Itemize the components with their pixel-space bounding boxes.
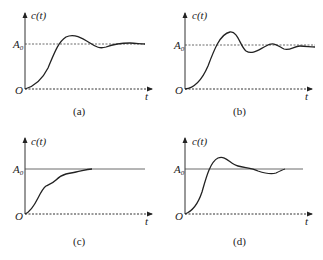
x-axis-label-b: t: [305, 90, 309, 102]
panel-d: c(t) t O A0 (d): [173, 135, 312, 248]
x-axis-label-a: t: [145, 90, 149, 102]
ref-label-a: A0: [12, 38, 24, 52]
panel-b: c(t) t O A0 (b): [173, 9, 315, 118]
caption-b: (b): [233, 105, 246, 118]
caption-a: (a): [73, 105, 86, 118]
origin-label-c: O: [15, 210, 23, 222]
origin-label-b: O: [175, 84, 183, 96]
response-curve-b: [185, 32, 315, 89]
origin-label-a: O: [15, 84, 23, 96]
step-response-figure: c(t) t O A0 (a) c(t) t O A0 (b) c(t) t O…: [0, 0, 323, 260]
y-axis-label-c: c(t): [31, 135, 47, 148]
y-axis-label-b: c(t): [192, 9, 208, 22]
panel-c: c(t) t O A0 (c): [12, 135, 152, 248]
ref-label-b: A0: [173, 39, 185, 53]
response-curve-a: [25, 36, 145, 89]
x-axis-label-c: t: [145, 215, 149, 227]
y-axis-label-a: c(t): [31, 9, 47, 22]
response-curve-d: [185, 157, 285, 214]
origin-label-d: O: [175, 210, 183, 222]
x-axis-label-d: t: [305, 215, 309, 227]
ref-label-c: A0: [12, 163, 24, 177]
y-axis-label-d: c(t): [192, 135, 208, 148]
panel-a: c(t) t O A0 (a): [12, 9, 152, 118]
response-curve-c: [25, 169, 92, 214]
caption-c: (c): [73, 235, 86, 248]
caption-d: (d): [233, 235, 246, 248]
ref-label-d: A0: [173, 163, 185, 177]
